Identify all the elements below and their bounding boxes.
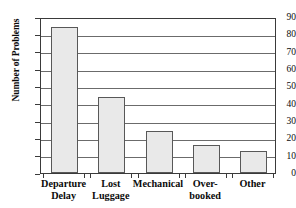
bar: [51, 27, 78, 173]
bar: [98, 97, 125, 173]
bar: [193, 145, 220, 173]
y-axis-title: Number of Problems: [11, 0, 21, 120]
x-axis-category-label: Other: [222, 178, 283, 190]
bar: [146, 131, 173, 173]
bar: [240, 151, 267, 173]
plot-area: [40, 18, 276, 174]
bar-chart: Number of Problems 0102030405060708090 D…: [0, 0, 296, 208]
